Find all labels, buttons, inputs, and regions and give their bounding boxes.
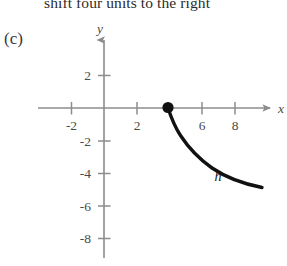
y-tick-label: -8	[80, 231, 91, 246]
x-tick-label: 8	[232, 118, 239, 133]
y-tick-label: -4	[80, 166, 91, 181]
curve-endpoint-dot	[162, 102, 173, 113]
curve-label-h: h	[215, 169, 222, 184]
y-tick-label: -2	[80, 134, 91, 149]
y-tick-label: 2	[84, 68, 91, 83]
y-axis-label: y	[95, 21, 103, 36]
x-tick-label: 6	[199, 118, 206, 133]
x-axis-label: x	[277, 101, 284, 116]
y-tick-label: -6	[80, 199, 91, 214]
x-tick-label: 2	[134, 118, 141, 133]
figure-panel: shift four units to the right (c) -2 2 6…	[0, 0, 287, 266]
coordinate-plot: -2 2 6 8 2 -2 -4 -6 -8 y x h	[0, 0, 287, 266]
x-tick-label: -2	[66, 118, 77, 133]
